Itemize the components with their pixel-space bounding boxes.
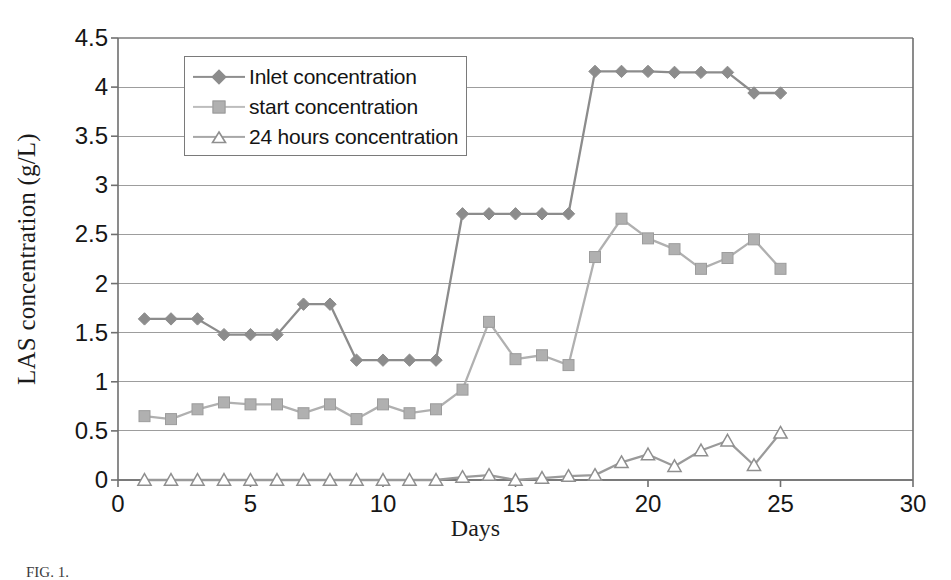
x-tick-label: 0 — [88, 490, 148, 518]
legend-label-inlet: Inlet concentration — [245, 65, 417, 89]
y-tick-label: 1 — [38, 368, 108, 396]
legend-item-24hours[interactable]: 24 hours concentration — [193, 122, 458, 152]
x-tick-label: 30 — [883, 490, 943, 518]
series-2 — [139, 213, 786, 424]
diamond-marker-icon — [193, 69, 245, 85]
figure-caption: FIG. 1. — [26, 564, 69, 580]
y-tick-label: 3 — [38, 171, 108, 199]
y-tick-label: 0.5 — [38, 417, 108, 445]
legend-item-start[interactable]: start concentration — [193, 92, 458, 122]
y-tick-label: 2.5 — [38, 220, 108, 248]
y-tick-label: 4.5 — [38, 24, 108, 52]
legend-label-24hours: 24 hours concentration — [245, 125, 458, 149]
chart-figure: LAS concentration (g/L) Days 00.511.522.… — [0, 0, 951, 580]
legend-label-start: start concentration — [245, 95, 418, 119]
x-tick-label: 10 — [353, 490, 413, 518]
x-tick-label: 25 — [751, 490, 811, 518]
y-tick-label: 1.5 — [38, 319, 108, 347]
x-tick-label: 5 — [221, 490, 281, 518]
y-tick-label: 3.5 — [38, 122, 108, 150]
y-tick-label: 2 — [38, 270, 108, 298]
square-marker-icon — [193, 99, 245, 115]
chart-legend: Inlet concentration start concentration … — [184, 56, 467, 156]
series-3 — [138, 426, 787, 485]
legend-item-inlet[interactable]: Inlet concentration — [193, 62, 458, 92]
triangle-marker-icon — [193, 129, 245, 145]
x-tick-label: 20 — [618, 490, 678, 518]
x-tick-label: 15 — [486, 490, 546, 518]
y-tick-label: 4 — [38, 73, 108, 101]
